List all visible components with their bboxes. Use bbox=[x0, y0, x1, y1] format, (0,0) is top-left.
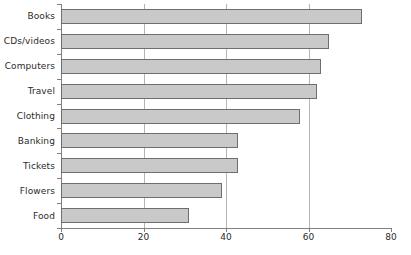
y-axis-label-clothing: Clothing bbox=[0, 111, 55, 121]
y-axis-label-food: Food bbox=[0, 211, 55, 221]
x-tick-label-40: 40 bbox=[220, 232, 231, 243]
y-tick-3 bbox=[57, 79, 61, 80]
y-tick-5 bbox=[57, 128, 61, 129]
y-axis-label-books: Books bbox=[0, 11, 55, 21]
y-axis-label-travel: Travel bbox=[0, 86, 55, 96]
x-tick-label-80: 80 bbox=[385, 232, 396, 243]
bar bbox=[61, 84, 317, 99]
y-axis-label-banking: Banking bbox=[0, 136, 55, 146]
y-axis-category-labels: BooksCDs/videosComputersTravelClothingBa… bbox=[0, 0, 55, 228]
y-tick-6 bbox=[57, 153, 61, 154]
y-tick-0 bbox=[57, 4, 61, 5]
y-axis-label-flowers: Flowers bbox=[0, 186, 55, 196]
bar bbox=[61, 133, 238, 148]
bar bbox=[61, 158, 238, 173]
x-tick-label-20: 20 bbox=[138, 232, 149, 243]
bar bbox=[61, 9, 362, 24]
bar-chart: BooksCDs/videosComputersTravelClothingBa… bbox=[0, 0, 411, 255]
y-tick-9 bbox=[57, 228, 61, 229]
y-axis-label-computers: Computers bbox=[0, 61, 55, 71]
y-axis-label-tickets: Tickets bbox=[0, 161, 55, 171]
y-tick-7 bbox=[57, 178, 61, 179]
x-tick-label-0: 0 bbox=[58, 232, 64, 243]
y-axis-label-cds-videos: CDs/videos bbox=[0, 36, 55, 46]
bar bbox=[61, 109, 300, 124]
x-axis-tick-labels: 020406080 bbox=[0, 232, 411, 246]
bar bbox=[61, 208, 189, 223]
y-tick-4 bbox=[57, 104, 61, 105]
bar bbox=[61, 34, 329, 49]
y-tick-8 bbox=[57, 203, 61, 204]
y-tick-1 bbox=[57, 29, 61, 30]
bar bbox=[61, 183, 222, 198]
y-tick-2 bbox=[57, 54, 61, 55]
x-tick-label-60: 60 bbox=[303, 232, 314, 243]
bar bbox=[61, 59, 321, 74]
plot-area bbox=[61, 4, 391, 228]
